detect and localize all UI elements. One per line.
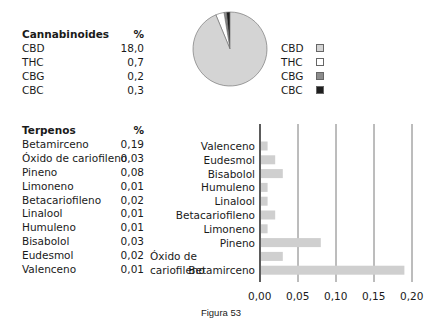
bar-category-label: Bisabolol bbox=[208, 167, 255, 181]
bar-category-label: Pineno bbox=[220, 236, 255, 250]
cannabinoids-header-label: Cannabinoides bbox=[22, 27, 109, 41]
terpenes-header: Terpenos % bbox=[22, 124, 144, 138]
bar-category-label: Óxido de cariofileno bbox=[150, 249, 255, 263]
table-row: Óxido de cariofileno0,03 bbox=[22, 152, 144, 166]
cannabinoids-pie-chart bbox=[190, 9, 270, 89]
cannabinoid-value: 18,0 bbox=[121, 41, 144, 55]
terpene-name: Bisabolol bbox=[22, 235, 69, 249]
terpene-name: Pineno bbox=[22, 166, 57, 180]
x-tick-label: 0,10 bbox=[324, 290, 347, 302]
terpene-value: 0,19 bbox=[121, 138, 144, 152]
legend-swatch-thc bbox=[316, 58, 324, 66]
table-row: Linalool0,01 bbox=[22, 207, 144, 221]
bar-1 bbox=[261, 155, 275, 164]
pie-legend: CBD THC CBG CBC bbox=[281, 41, 331, 97]
table-row: THC 0,7 bbox=[22, 55, 144, 69]
legend-label: CBC bbox=[281, 83, 303, 97]
table-row: CBD 18,0 bbox=[22, 41, 144, 55]
pie-slice-cbd bbox=[193, 12, 267, 86]
table-row: CBG 0,2 bbox=[22, 69, 144, 83]
cannabinoid-value: 0,3 bbox=[127, 83, 144, 97]
bar-category-label: Linalool bbox=[214, 194, 255, 208]
table-row: Humuleno0,01 bbox=[22, 221, 144, 235]
terpene-name: Valenceno bbox=[22, 263, 76, 277]
x-tick-label: 0,20 bbox=[400, 290, 423, 302]
bar-category-label: Humuleno bbox=[201, 180, 255, 194]
table-row: Betamirceno0,19 bbox=[22, 138, 144, 152]
terpene-value: 0,08 bbox=[121, 166, 144, 180]
cannabinoid-name: CBD bbox=[22, 41, 45, 55]
bar-category-label: Betamirceno bbox=[188, 263, 255, 277]
bar-2 bbox=[261, 169, 283, 178]
terpene-name: Óxido de cariofileno bbox=[22, 152, 127, 166]
table-row: CBC 0,3 bbox=[22, 83, 144, 97]
cannabinoid-value: 0,2 bbox=[127, 69, 144, 83]
terpenes-table: Terpenos % Betamirceno0,19 Óxido de cari… bbox=[22, 124, 144, 276]
terpene-value: 0,02 bbox=[121, 249, 144, 263]
terpenes-header-unit: % bbox=[133, 124, 144, 138]
table-row: Eudesmol0,02 bbox=[22, 249, 144, 263]
bar-3 bbox=[261, 183, 268, 192]
bar-category-label: Eudesmol bbox=[204, 153, 255, 167]
x-tick-label: 0,05 bbox=[286, 290, 309, 302]
legend-label: CBG bbox=[281, 69, 304, 83]
legend-item-thc: THC bbox=[281, 55, 331, 69]
terpene-value: 0,03 bbox=[121, 152, 144, 166]
terpene-value: 0,02 bbox=[121, 194, 144, 208]
terpene-name: Humuleno bbox=[22, 221, 76, 235]
table-row: Limoneno0,01 bbox=[22, 180, 144, 194]
x-tick-label: 0,00 bbox=[248, 290, 271, 302]
terpene-value: 0,01 bbox=[121, 207, 144, 221]
bar-category-label: Limoneno bbox=[203, 222, 255, 236]
legend-swatch-cbg bbox=[316, 72, 324, 80]
legend-item-cbg: CBG bbox=[281, 69, 331, 83]
terpene-value: 0,01 bbox=[121, 263, 144, 277]
cannabinoid-name: CBG bbox=[22, 69, 45, 83]
terpene-value: 0,01 bbox=[121, 180, 144, 194]
terpene-name: Limoneno bbox=[22, 180, 74, 194]
cannabinoids-header-unit: % bbox=[133, 27, 144, 41]
bar-5 bbox=[261, 211, 275, 220]
table-row: Valenceno0,01 bbox=[22, 263, 144, 277]
bar-4 bbox=[261, 197, 268, 206]
bar-0 bbox=[261, 142, 268, 151]
bar-9 bbox=[261, 266, 404, 275]
terpene-value: 0,01 bbox=[121, 221, 144, 235]
terpene-name: Betamirceno bbox=[22, 138, 89, 152]
legend-item-cbd: CBD bbox=[281, 41, 331, 55]
bar-8 bbox=[261, 252, 283, 261]
cannabinoid-name: CBC bbox=[22, 83, 44, 97]
legend-swatch-cbd bbox=[316, 44, 324, 52]
table-row: Bisabolol0,03 bbox=[22, 235, 144, 249]
bar-category-label: Valenceno bbox=[201, 139, 255, 153]
cannabinoid-name: THC bbox=[22, 55, 44, 69]
legend-label: CBD bbox=[281, 41, 304, 55]
terpenes-header-label: Terpenos bbox=[22, 124, 76, 138]
terpene-name: Linalool bbox=[22, 207, 63, 221]
legend-label: THC bbox=[281, 55, 303, 69]
terpene-name: Betacariofileno bbox=[22, 194, 101, 208]
cannabinoid-value: 0,7 bbox=[127, 55, 144, 69]
legend-swatch-cbc bbox=[316, 86, 324, 94]
legend-item-cbc: CBC bbox=[281, 83, 331, 97]
bar-7 bbox=[261, 238, 321, 247]
bar-6 bbox=[261, 224, 268, 233]
x-tick-label: 0,15 bbox=[362, 290, 385, 302]
bar-category-label: Betacariofileno bbox=[176, 208, 255, 222]
table-row: Betacariofileno0,02 bbox=[22, 194, 144, 208]
terpene-value: 0,03 bbox=[121, 235, 144, 249]
terpene-name: Eudesmol bbox=[22, 249, 73, 263]
cannabinoids-table: Cannabinoides % CBD 18,0 THC 0,7 CBG 0,2… bbox=[22, 27, 144, 97]
figure-caption: Figura 53 bbox=[0, 307, 442, 318]
terpenes-bar-chart bbox=[255, 120, 425, 290]
x-axis-tick-labels: 0,00 0,05 0,10 0,15 0,20 bbox=[0, 290, 442, 304]
cannabinoids-header: Cannabinoides % bbox=[22, 27, 144, 41]
table-row: Pineno0,08 bbox=[22, 166, 144, 180]
